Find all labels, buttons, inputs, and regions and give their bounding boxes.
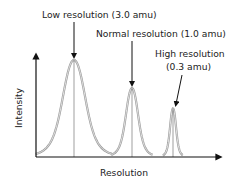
resolution-diagram: Low resolution (3.0 amu) Normal resoluti…	[0, 0, 239, 188]
peak-label-low: Low resolution (3.0 amu)	[42, 9, 157, 20]
pointer-arrow-high	[176, 75, 182, 104]
peak-label-normal: Normal resolution (1.0 amu)	[96, 28, 226, 39]
peak-label-high: High resolution	[155, 48, 225, 59]
peak-label-high-width: (0.3 amu)	[166, 61, 211, 72]
x-axis-label: Resolution	[100, 167, 148, 178]
y-axis-label: Intensity	[13, 87, 24, 128]
